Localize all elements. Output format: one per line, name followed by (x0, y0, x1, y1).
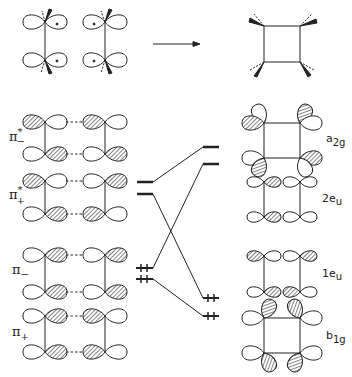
label-pi-plus-star: π*+ (9, 188, 31, 201)
energy-levels-right (203, 147, 219, 320)
label-base: π (12, 262, 21, 277)
label-base: a (326, 132, 333, 145)
mo-pi-minus-star (23, 115, 127, 161)
mo-b1g (242, 297, 322, 374)
label-sub: u (336, 196, 342, 207)
label-pi-plus: π+ (12, 325, 29, 338)
mo-pi-minus (23, 248, 127, 299)
label-1eu: 1eu (322, 268, 342, 279)
ethylene-pair-reactants (23, 9, 127, 74)
mo-a2g (242, 102, 322, 179)
label-sub: u (336, 271, 342, 282)
label-pi-minus: π− (12, 263, 29, 276)
label-base: b (326, 329, 333, 342)
label-sub: 2g (333, 137, 346, 148)
label-sub: − (21, 269, 29, 280)
mo-pi-plus (23, 309, 127, 359)
reaction-arrow (153, 42, 200, 47)
label-sub: − (17, 136, 25, 147)
cyclobutane-product (249, 14, 317, 77)
mo-pi-plus-star (23, 174, 127, 221)
energy-levels-left (136, 182, 153, 283)
label-base: 2e (322, 192, 336, 205)
label-base: 1e (322, 267, 336, 280)
label-2eu: 2eu (322, 193, 342, 204)
label-sup: * (18, 184, 23, 195)
label-sub: + (21, 331, 29, 342)
orbital-correlation-diagram: π*− π*+ π− π+ a2g 2eu 1eu b1g (0, 0, 352, 377)
label-sub: + (17, 195, 25, 206)
label-b1g: b1g (326, 330, 346, 341)
mo-2eu (247, 177, 317, 223)
correlation-lines (153, 147, 203, 316)
label-pi-minus-star: π*− (9, 130, 31, 143)
label-sub: 1g (333, 334, 346, 345)
mo-1eu (247, 251, 317, 298)
label-a2g: a2g (326, 133, 345, 144)
label-base: π (12, 324, 21, 339)
